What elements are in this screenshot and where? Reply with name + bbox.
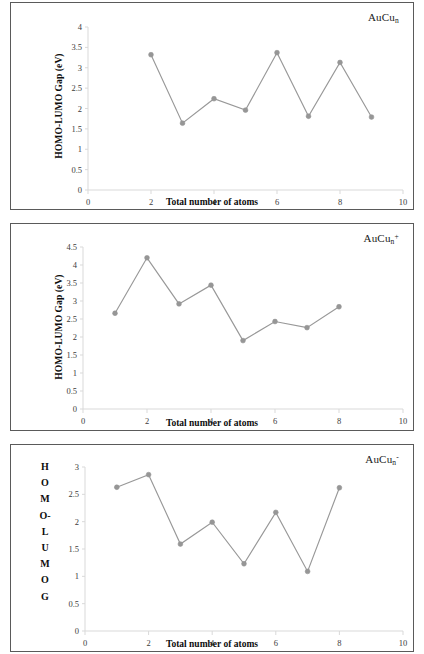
y-tick-label: 0 <box>78 185 82 195</box>
data-point <box>113 311 118 316</box>
y-tick-label: 4 <box>78 22 83 32</box>
y-tick-label: 0 <box>73 404 77 414</box>
y-tick-label: 2 <box>75 517 79 527</box>
data-point <box>149 52 154 57</box>
data-point <box>338 60 343 65</box>
data-point <box>243 108 248 113</box>
data-point <box>305 569 310 574</box>
x-axis-label-anion: Total number of atoms <box>11 639 413 649</box>
data-point <box>241 338 246 343</box>
data-point <box>177 301 182 306</box>
x-axis-label-cation: Total number of atoms <box>11 418 413 428</box>
y-tick-label: 0 <box>75 626 79 636</box>
y-tick-label: 3 <box>78 63 82 73</box>
y-tick-label: 1 <box>75 571 79 581</box>
plot-area-neutral: 00.511.522.533.540246810 <box>11 3 415 211</box>
figure-container: HOMO-LUMO Gap (eV) 00.511.522.533.540246… <box>0 0 424 654</box>
plot-area-anion: 00.511.522.530246810 <box>11 445 415 653</box>
data-point <box>273 319 278 324</box>
data-point <box>275 50 280 55</box>
y-tick-label: 4 <box>73 260 78 270</box>
data-point <box>337 304 342 309</box>
y-tick-label: 3 <box>73 296 77 306</box>
series-label-cation: AuCun+ <box>364 232 399 246</box>
data-point <box>305 325 310 330</box>
y-tick-label: 2.5 <box>68 489 79 499</box>
chart-panel-cation: HOMO-LUMO Gap (eV) 00.511.522.533.544.50… <box>10 223 414 431</box>
y-tick-label: 4.5 <box>66 242 77 252</box>
y-tick-label: 1 <box>73 368 77 378</box>
x-axis-label-neutral: Total number of atoms <box>11 197 413 207</box>
data-point <box>180 121 185 126</box>
y-tick-label: 1.5 <box>68 544 79 554</box>
data-point <box>369 115 374 120</box>
y-tick-label: 3.5 <box>66 278 77 288</box>
y-tick-label: 2 <box>73 332 77 342</box>
chart-panel-anion: HOMO-LUMOG 00.511.522.530246810 AuCun- T… <box>10 444 414 652</box>
data-point <box>242 561 247 566</box>
y-tick-label: 2.5 <box>71 83 82 93</box>
data-point <box>337 485 342 490</box>
chart-panel-neutral: HOMO-LUMO Gap (eV) 00.511.522.533.540246… <box>10 2 414 210</box>
y-tick-label: 2 <box>78 104 82 114</box>
series-label-neutral: AuCun <box>368 11 399 25</box>
data-point <box>146 472 151 477</box>
y-tick-label: 2.5 <box>66 314 77 324</box>
data-point <box>306 114 311 119</box>
data-point <box>212 96 217 101</box>
y-tick-label: 3 <box>75 462 79 472</box>
data-point <box>114 485 119 490</box>
y-tick-label: 1.5 <box>71 124 82 134</box>
data-point <box>210 520 215 525</box>
y-tick-label: 0.5 <box>71 165 82 175</box>
data-line <box>117 475 340 572</box>
y-tick-label: 1 <box>78 144 82 154</box>
y-tick-label: 0.5 <box>68 599 79 609</box>
data-point <box>178 542 183 547</box>
y-tick-label: 1.5 <box>66 350 77 360</box>
plot-area-cation: 00.511.522.533.544.50246810 <box>11 224 415 432</box>
series-label-anion: AuCun- <box>365 453 399 467</box>
y-tick-label: 3.5 <box>71 42 82 52</box>
y-tick-label: 0.5 <box>66 386 77 396</box>
data-point <box>145 255 150 260</box>
data-point <box>209 283 214 288</box>
data-point <box>273 510 278 515</box>
